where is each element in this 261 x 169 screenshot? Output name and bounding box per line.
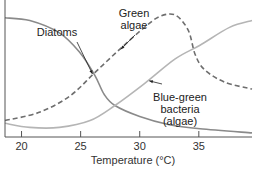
annotation-green-algae: Greenalgae [119,7,150,31]
annotation-blue-green-bacteria-algae: Blue-greenbacteria(algae) [153,91,207,127]
x-tick-label: 35 [193,140,205,152]
x-tick-label: 20 [15,140,27,152]
x-axis-title: Temperature (°C) [91,154,175,166]
annotation-diatoms: Diatoms [37,26,78,38]
x-tick-label: 25 [75,140,87,152]
x-tick-label: 30 [134,140,146,152]
annotation-arrow [77,42,92,74]
chart: 20253035 DiatomsGreenalgaeBlue-greenbact… [0,0,261,169]
